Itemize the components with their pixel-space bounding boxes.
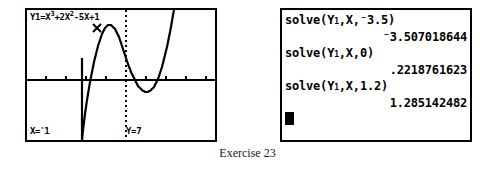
command-3-head: solve(Y (285, 79, 334, 93)
trace-x-coordinate: X=-1 (30, 126, 49, 137)
calculator-figure: Y1=X3+2X2-5X+1 X=-1 Y=7 solve(Y1,X,⁻3.5)… (0, 0, 495, 169)
home-line-answer-3: 1.285142482 (285, 95, 467, 112)
home-line-command-3: solve(Y1,X,1.2) (285, 78, 467, 95)
trace-x-label: X= (30, 126, 40, 136)
home-line-answer-1: ⁻3.507018644 (285, 29, 467, 46)
graph-plot (27, 10, 215, 140)
trace-cursor-marker (93, 24, 101, 32)
equation-label: Y1=X3+2X2-5X+1 (30, 12, 99, 22)
command-3-tail: ,X,1.2) (339, 79, 388, 93)
graph-screen-inner: Y1=X3+2X2-5X+1 X=-1 Y=7 (27, 10, 215, 140)
graph-screen[interactable]: Y1=X3+2X2-5X+1 X=-1 Y=7 (25, 8, 217, 142)
command-2-head: solve(Y (285, 46, 334, 60)
home-line-command-2: solve(Y1,X,0) (285, 45, 467, 62)
home-line-answer-2: .2218761623 (285, 62, 467, 79)
home-line-command-1: solve(Y1,X,⁻3.5) (285, 12, 467, 29)
home-screen[interactable]: solve(Y1,X,⁻3.5) ⁻3.507018644 solve(Y1,X… (280, 8, 472, 142)
equation-suffix: -5X+1 (74, 12, 100, 22)
trace-coordinate-row: X=-1 Y=7 (27, 126, 215, 138)
block-cursor-icon (285, 112, 294, 125)
home-screen-inner: solve(Y1,X,⁻3.5) ⁻3.507018644 solve(Y1,X… (282, 10, 470, 140)
command-2-tail: ,X,0) (339, 46, 374, 60)
equation-mid: +2X (54, 12, 69, 22)
trace-y-coordinate: Y=7 (126, 126, 141, 137)
home-line-cursor (285, 111, 467, 128)
trace-x-value: 1 (44, 126, 49, 136)
equation-prefix: Y1=X (30, 12, 50, 22)
figure-caption: Exercise 23 (0, 146, 495, 161)
command-1-head: solve(Y (285, 13, 334, 27)
command-1-tail: ,X,⁻3.5) (339, 13, 395, 27)
